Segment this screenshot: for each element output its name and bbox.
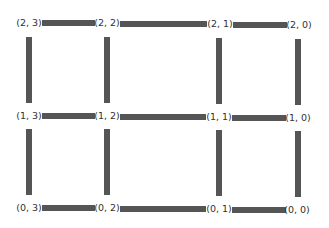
vertical-edge [26, 129, 32, 195]
node-label: (2, 3) [16, 18, 42, 28]
vertical-edge [295, 131, 301, 197]
node-label: (1, 2) [94, 111, 120, 121]
vertical-edge [216, 38, 222, 104]
horizontal-edge [42, 205, 95, 211]
node-label: (0, 0) [284, 205, 310, 215]
horizontal-edge [120, 114, 206, 120]
vertical-edge [216, 130, 222, 196]
vertical-edge [26, 37, 32, 103]
grid-graph-diagram: (2, 3)(2, 2)(2, 1)(2, 0)(1, 3)(1, 2)(1, … [0, 0, 329, 228]
node-label: (2, 0) [286, 20, 312, 30]
node-label: (0, 1) [206, 204, 232, 214]
vertical-edge [104, 129, 110, 195]
horizontal-edge [232, 115, 286, 121]
node-label: (1, 3) [16, 111, 42, 121]
node-label: (1, 0) [285, 113, 311, 123]
vertical-edge [104, 37, 110, 103]
horizontal-edge [233, 22, 287, 28]
horizontal-edge [42, 20, 95, 26]
horizontal-edge [232, 207, 286, 213]
node-label: (2, 2) [94, 18, 120, 28]
node-label: (2, 1) [207, 19, 233, 29]
horizontal-edge [120, 21, 207, 27]
node-label: (0, 2) [94, 203, 120, 213]
node-label: (0, 3) [16, 203, 42, 213]
horizontal-edge [120, 206, 206, 212]
horizontal-edge [42, 113, 95, 119]
node-label: (1, 1) [206, 112, 232, 122]
vertical-edge [295, 39, 301, 105]
